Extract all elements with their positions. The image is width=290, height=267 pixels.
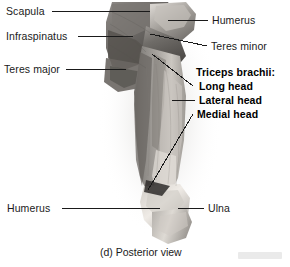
label-triceps-brachii: Triceps brachii: <box>196 66 275 78</box>
label-humerus-proximal: Humerus <box>212 14 255 26</box>
label-infraspinatus: Infraspinatus <box>6 30 67 42</box>
label-teres-major: Teres major <box>4 63 60 75</box>
label-humerus-distal: Humerus <box>7 202 50 214</box>
label-teres-minor: Teres minor <box>211 40 267 52</box>
figure-caption: (d) Posterior view <box>100 246 182 258</box>
label-ulna: Ulna <box>208 202 230 214</box>
label-scapula: Scapula <box>6 5 45 17</box>
label-long-head: Long head <box>199 80 253 92</box>
label-medial-head: Medial head <box>197 108 258 120</box>
anatomy-figure: Scapula Infraspinatus Teres major Humeru… <box>0 0 290 267</box>
label-lateral-head: Lateral head <box>199 94 262 106</box>
